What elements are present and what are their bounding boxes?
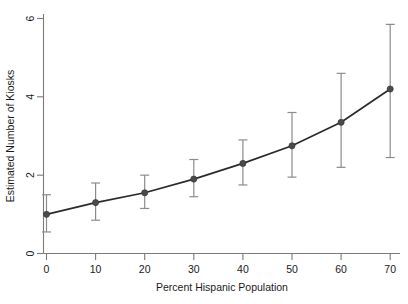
data-point [93,199,99,205]
data-point [289,143,295,149]
axis-group [44,14,401,254]
x-tick-label-50: 50 [286,263,298,275]
series-line-estimated-kiosks [47,89,391,214]
x-tick-label-60: 60 [335,263,347,275]
line-chart-plot: 6 4 2 0 0 10 20 30 40 50 60 70 [0,0,408,304]
x-tick-label-40: 40 [237,263,249,275]
data-point [142,190,148,196]
y-axis-title: Estimated Number of Kiosks [4,70,16,202]
data-point [338,119,344,125]
x-axis-title: Percent Hispanic Population [156,281,288,293]
x-tick-label-30: 30 [188,263,200,275]
data-point [191,176,197,182]
x-tick-group [47,254,391,261]
x-tick-label-70: 70 [384,263,396,275]
x-tick-label-0: 0 [44,263,50,275]
y-tick-label-6: 6 [24,15,36,21]
y-tick-group [37,19,44,254]
x-tick-label-20: 20 [139,263,151,275]
y-tick-label-4: 4 [24,94,36,100]
data-point [43,211,49,217]
chart-container: 6 4 2 0 0 10 20 30 40 50 60 70 [0,0,408,304]
y-tick-label-2: 2 [24,172,36,178]
data-point [387,86,393,92]
y-tick-label-0: 0 [24,250,36,256]
data-point [240,160,246,166]
x-tick-label-10: 10 [90,263,102,275]
y-tick-labels: 6 4 2 0 [24,15,36,256]
x-tick-labels: 0 10 20 30 40 50 60 70 [44,263,397,275]
